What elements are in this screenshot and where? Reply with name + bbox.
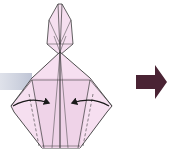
origami-ear — [47, 4, 73, 55]
next-step-arrow-icon — [136, 65, 167, 99]
origami-diagram: Origami fold step — [0, 0, 177, 155]
origami-body — [11, 52, 112, 148]
